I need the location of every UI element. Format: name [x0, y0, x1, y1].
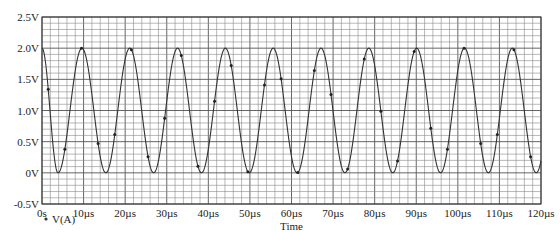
sample-marker — [479, 142, 482, 145]
sample-marker — [529, 155, 532, 158]
legend-label: V(A) — [52, 213, 76, 226]
x-tick-label: 120µs — [527, 207, 554, 219]
x-tick-label: 70µs — [322, 207, 344, 219]
x-tick-label: 30µs — [156, 207, 178, 219]
legend-marker-icon — [44, 217, 47, 220]
sample-marker — [80, 47, 83, 50]
sample-marker — [363, 58, 366, 61]
legend: V(A) — [44, 213, 75, 226]
x-tick-label: 50µs — [239, 207, 261, 219]
y-tick-label: -0.5V — [14, 198, 39, 210]
x-tick-label: 80µs — [364, 207, 386, 219]
sample-marker — [97, 142, 100, 145]
plot-grid — [42, 17, 541, 204]
y-tick-label: 0V — [26, 167, 40, 179]
sample-marker — [263, 83, 266, 86]
sample-marker — [296, 171, 299, 174]
sample-marker — [496, 133, 499, 136]
transient-voltage-chart: -0.5V0V0.5V1.0V1.5V2.0V2.5V 0s10µs20µs30… — [0, 0, 560, 232]
x-tick-label: 90µs — [405, 207, 427, 219]
x-tick-label: 40µs — [198, 207, 220, 219]
sample-marker — [47, 88, 50, 91]
sample-marker — [246, 170, 249, 173]
x-axis-title: Time — [280, 220, 303, 232]
x-tick-label: 60µs — [281, 207, 303, 219]
y-axis-ticks: -0.5V0V0.5V1.0V1.5V2.0V2.5V — [14, 11, 39, 210]
sample-marker — [230, 64, 233, 67]
y-tick-label: 0.5V — [17, 136, 39, 148]
sample-marker — [63, 148, 66, 151]
sample-marker — [379, 110, 382, 113]
x-tick-label: 110µs — [486, 207, 513, 219]
sample-marker — [280, 77, 283, 80]
sample-marker — [213, 100, 216, 103]
x-tick-label: 0s — [37, 207, 47, 219]
y-tick-label: 2.5V — [17, 11, 39, 23]
x-axis-ticks: 0s10µs20µs30µs40µs50µs60µs70µs80µs90µs10… — [37, 207, 554, 219]
sample-marker — [330, 93, 333, 96]
x-tick-label: 10µs — [73, 207, 95, 219]
y-tick-label: 1.5V — [17, 73, 39, 85]
sample-marker — [147, 155, 150, 158]
sample-marker — [113, 133, 116, 136]
x-tick-label: 100µs — [444, 207, 471, 219]
sample-marker — [446, 148, 449, 151]
y-tick-label: 1.0V — [17, 105, 39, 117]
sample-marker — [429, 127, 432, 130]
sample-marker — [512, 48, 515, 51]
sample-marker — [196, 165, 199, 168]
sample-marker — [313, 69, 316, 72]
y-tick-label: 2.0V — [17, 42, 39, 54]
sample-marker — [163, 117, 166, 120]
sample-marker — [130, 48, 133, 51]
sample-marker — [413, 50, 416, 53]
sample-marker — [463, 47, 466, 50]
sample-marker — [346, 167, 349, 170]
sample-marker — [180, 54, 183, 57]
sample-marker — [396, 159, 399, 162]
x-tick-label: 20µs — [114, 207, 136, 219]
